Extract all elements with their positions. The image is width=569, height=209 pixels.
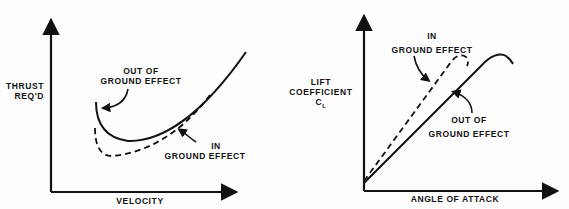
y-label-line1: THRUST — [2, 81, 44, 91]
left-out-pointer — [104, 89, 128, 108]
label-line1: IN — [160, 141, 250, 151]
left-y-label: THRUST REQ'D — [2, 81, 44, 101]
right-in-pointer — [414, 56, 428, 80]
right-x-label: ANGLE OF ATTACK — [400, 194, 510, 204]
cl-subscript: L — [322, 103, 326, 109]
left-chart — [51, 22, 246, 192]
right-y-label: LIFT COEFFICIENT CL — [283, 77, 359, 111]
left-in-ground-effect-label: IN GROUND EFFECT — [160, 141, 250, 161]
y-label-line2: REQ'D — [2, 91, 44, 101]
label-line2: GROUND EFFECT — [160, 151, 250, 161]
right-out-pointer — [454, 92, 472, 113]
right-in-ground-effect-label: IN GROUND EFFECT — [384, 31, 480, 55]
y-label-line1: LIFT — [283, 77, 359, 87]
y-label-symbol: CL — [283, 97, 359, 111]
label-line2: GROUND EFFECT — [98, 76, 184, 86]
label-line1: OUT OF — [421, 115, 517, 125]
ground-effect-diagram: THRUST REQ'D OUT OF GROUND EFFECT IN GRO… — [0, 0, 569, 209]
y-label-line2: COEFFICIENT — [283, 87, 359, 97]
label-line2: GROUND EFFECT — [384, 45, 480, 55]
label-line1: OUT OF — [98, 66, 184, 76]
left-x-label: VELOCITY — [100, 196, 180, 206]
label-line1: IN — [384, 31, 480, 41]
left-out-ground-effect-label: OUT OF GROUND EFFECT — [98, 66, 184, 86]
right-out-ground-effect-label: OUT OF GROUND EFFECT — [421, 115, 517, 139]
label-line2: GROUND EFFECT — [421, 129, 517, 139]
